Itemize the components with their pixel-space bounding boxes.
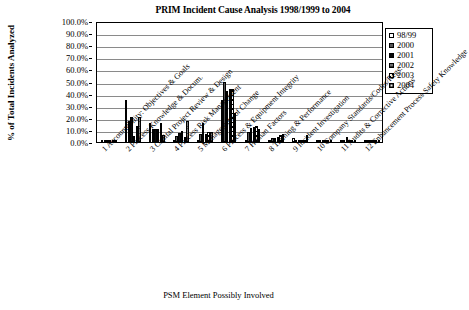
y-axis-tick: 100.0% [62, 17, 88, 27]
y-axis-tick-mark [89, 34, 92, 35]
y-axis-tick: 70.0% [66, 53, 88, 63]
y-axis-tick-mark [89, 107, 92, 108]
x-axis-category-labels: 1 Accountability: Objectives & Goals2 Pr… [0, 143, 437, 263]
y-axis-tick: 90.0% [66, 29, 88, 39]
chart-title: PRIM Incident Cause Analysis 1998/1999 t… [108, 5, 398, 15]
legend-swatch-icon [389, 53, 394, 58]
y-axis-tick: 40.0% [66, 90, 88, 100]
x-axis-title: PSM Element Possibly Involved [0, 290, 437, 300]
y-axis-tick: 80.0% [66, 41, 88, 51]
y-axis-tick: 50.0% [66, 78, 88, 88]
y-axis-tick-mark [89, 131, 92, 132]
y-axis-tick-mark [89, 95, 92, 96]
y-axis-tick-mark [89, 119, 92, 120]
y-axis-title-label: % of Total Incidents Analyzed [6, 25, 16, 141]
y-axis-tick: 30.0% [66, 102, 88, 112]
y-axis-tick-mark [89, 83, 92, 84]
y-axis-title: % of Total Incidents Analyzed [4, 20, 18, 146]
y-axis-tick: 10.0% [66, 126, 88, 136]
y-axis-tick-mark [89, 46, 92, 47]
bar-group [101, 23, 117, 142]
y-axis-tick-mark [89, 22, 92, 23]
legend-swatch-icon [389, 43, 394, 48]
legend-swatch-icon [389, 33, 394, 38]
y-axis-tick-labels: 100.0%90.0%80.0%70.0%60.0%50.0%40.0%30.0… [18, 18, 92, 148]
y-axis-tick-mark [89, 70, 92, 71]
y-axis-tick: 60.0% [66, 65, 88, 75]
y-axis-tick: 20.0% [66, 114, 88, 124]
y-axis-tick-mark [89, 58, 92, 59]
